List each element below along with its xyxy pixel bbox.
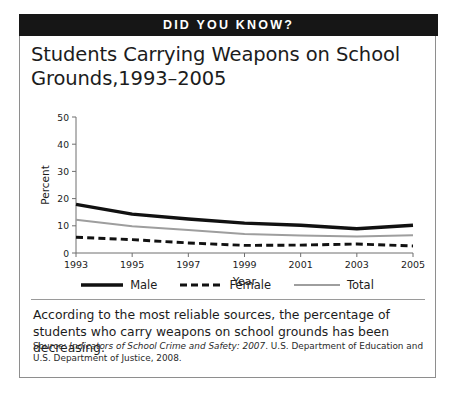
did-you-know-card: DID YOU KNOW? Students Carrying Weapons … [19, 14, 436, 378]
y-tick-label-0: 0 [63, 248, 69, 259]
x-tick-label-1993: 1993 [64, 259, 88, 270]
x-tick-label-1999: 1999 [232, 259, 256, 270]
solid-thick-black-line-icon [80, 280, 124, 290]
source-italic-title: Indicators of School Crime and Safety: 2… [69, 341, 265, 351]
x-tick-label-2001: 2001 [289, 259, 313, 270]
source-prefix: Source: [33, 341, 69, 351]
banner-title: DID YOU KNOW? [163, 18, 294, 32]
y-tick-label-50: 50 [57, 112, 69, 123]
legend-item-female: Female [179, 278, 271, 292]
legend-label-male: Male [130, 278, 157, 292]
y-tick-label-30: 30 [57, 166, 69, 177]
source-citation: Source: Indicators of School Crime and S… [33, 341, 423, 364]
y-tick-label-20: 20 [57, 193, 69, 204]
y-tick-label-10: 10 [57, 220, 69, 231]
legend-item-male: Male [80, 278, 157, 292]
line-chart: 010203040501993199519971999200120032005Y… [31, 105, 426, 295]
y-tick-label-40: 40 [57, 139, 69, 150]
page-title: Students Carrying Weapons on School Grou… [31, 43, 423, 91]
legend-item-total: Total [293, 278, 374, 292]
x-tick-label-2005: 2005 [401, 259, 425, 270]
page-root: DID YOU KNOW? Students Carrying Weapons … [0, 0, 455, 396]
section-divider [31, 299, 425, 300]
dashed-black-line-icon [179, 280, 223, 290]
chart-svg: 010203040501993199519971999200120032005Y… [31, 105, 426, 295]
solid-thin-gray-line-icon [293, 280, 341, 290]
x-tick-label-2003: 2003 [345, 259, 369, 270]
card-banner: DID YOU KNOW? [19, 14, 438, 36]
series-line-female [76, 237, 413, 246]
y-axis-title: Percent [39, 165, 51, 205]
legend-label-total: Total [347, 278, 374, 292]
x-tick-label-1995: 1995 [120, 259, 144, 270]
chart-legend: Male Female Total [31, 278, 423, 292]
legend-label-female: Female [229, 278, 271, 292]
x-tick-label-1997: 1997 [176, 259, 200, 270]
